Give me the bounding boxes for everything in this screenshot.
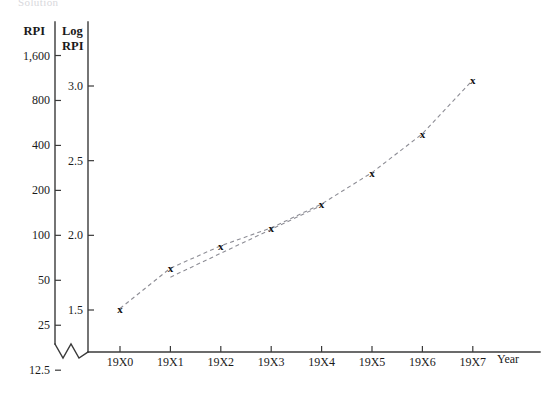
axis-title-log-rpi-line1: Log: [62, 24, 84, 38]
axis-break-zigzag: [55, 344, 88, 358]
data-point-marker: x: [369, 167, 375, 179]
rpi-log-chart: RPI Log RPI 1,600800400200100502512.5 3.…: [0, 0, 553, 395]
left-tick-label: 50: [38, 273, 50, 287]
data-point-marker: x: [470, 74, 476, 86]
data-point-marker: x: [117, 303, 123, 315]
left-tick-label: 400: [32, 138, 50, 152]
data-point-marker: x: [168, 262, 174, 274]
trend-line: [170, 205, 321, 277]
data-point-marker: x: [268, 222, 274, 234]
left-tick-label: 1,600: [23, 49, 50, 63]
left-tick-label: 100: [32, 228, 50, 242]
x-tick-label: 19X1: [157, 355, 184, 369]
data-point-marker: x: [420, 128, 426, 140]
x-tick-label: 19X0: [107, 355, 134, 369]
x-tick-label: 19X7: [459, 355, 486, 369]
x-tick-label: 19X3: [258, 355, 285, 369]
right-axis-ticks: 3.02.52.01.5: [68, 79, 94, 317]
series-line: [120, 80, 473, 308]
right-tick-label: 2.5: [68, 154, 83, 168]
data-markers: xxxxxxxx: [117, 74, 476, 314]
axis-title-log-rpi-line2: RPI: [62, 39, 84, 53]
x-tick-label: 19X5: [359, 355, 386, 369]
x-axis-ticks: 19X019X119X219X319X419X519X619X7: [107, 346, 486, 369]
x-tick-label: 19X2: [207, 355, 234, 369]
left-tick-label: 12.5: [29, 363, 50, 377]
left-tick-label: 200: [32, 183, 50, 197]
data-point-marker: x: [218, 240, 224, 252]
chart-container: Solution RPI Log RPI 1,60080040020010050…: [0, 0, 553, 395]
data-point-marker: x: [319, 198, 325, 210]
x-tick-label: 19X4: [308, 355, 335, 369]
right-tick-label: 1.5: [68, 303, 83, 317]
x-tick-label: 19X6: [409, 355, 436, 369]
left-tick-label: 25: [38, 318, 50, 332]
axis-title-rpi: RPI: [23, 24, 45, 38]
left-tick-label: 800: [32, 93, 50, 107]
right-tick-label: 2.0: [68, 228, 83, 242]
right-tick-label: 3.0: [68, 79, 83, 93]
x-axis-title: Year: [497, 352, 519, 366]
